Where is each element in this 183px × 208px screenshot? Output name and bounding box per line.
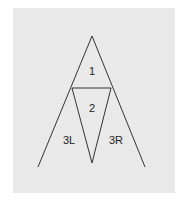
region-3l-label: 3L <box>63 134 75 146</box>
region-1-label: 1 <box>89 65 95 77</box>
region-3r-label: 3R <box>109 134 123 146</box>
left-outer-edge <box>38 36 92 167</box>
inner-left-edge <box>72 88 92 163</box>
right-outer-edge <box>92 36 145 167</box>
region-2-label: 2 <box>89 102 95 114</box>
inner-right-edge <box>92 88 111 163</box>
triangle-diagram: 1 2 3L 3R <box>0 0 183 208</box>
